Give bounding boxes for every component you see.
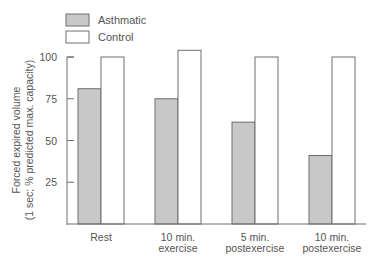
bar-asthmatic bbox=[78, 89, 101, 224]
y-axis-title: Forced expired volume bbox=[10, 86, 22, 193]
legend-swatch-asthmatic bbox=[66, 14, 89, 26]
y-axis-subtitle: (1 sec; % predicted max. capacity) bbox=[23, 60, 35, 220]
bar-control bbox=[101, 57, 124, 224]
x-category-label: exercise bbox=[158, 242, 197, 254]
bar-asthmatic bbox=[232, 122, 255, 224]
x-category-label: postexercise bbox=[226, 242, 285, 254]
y-tick-label: 75 bbox=[45, 93, 57, 105]
bars bbox=[78, 50, 355, 224]
y-tick-label: 100 bbox=[39, 51, 57, 63]
bar-asthmatic bbox=[155, 99, 178, 224]
bar-control bbox=[255, 57, 278, 224]
bar-control bbox=[178, 50, 201, 224]
x-axis: Rest10 min.exercise5 min.postexercise10 … bbox=[67, 224, 366, 254]
legend: AsthmaticControl bbox=[66, 14, 147, 43]
x-category-label: Rest bbox=[90, 231, 112, 243]
legend-label-asthmatic: Asthmatic bbox=[98, 14, 147, 26]
x-category-label: postexercise bbox=[303, 242, 362, 254]
bar-chart: AsthmaticControl 255075100Forced expired… bbox=[0, 0, 376, 265]
bar-control bbox=[332, 57, 355, 224]
bar-asthmatic bbox=[309, 156, 332, 224]
legend-label-control: Control bbox=[98, 31, 133, 43]
y-tick-label: 25 bbox=[45, 176, 57, 188]
y-tick-label: 50 bbox=[45, 135, 57, 147]
y-axis: 255075100Forced expired volume(1 sec; % … bbox=[10, 51, 74, 225]
legend-swatch-control bbox=[66, 31, 89, 43]
